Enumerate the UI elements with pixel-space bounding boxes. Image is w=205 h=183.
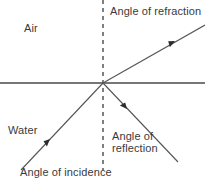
- label-angle-of-reflection: Angle of reflection: [112, 130, 158, 154]
- label-angle-of-refraction: Angle of refraction: [110, 5, 201, 17]
- refracted-ray-line: [103, 25, 205, 83]
- label-water: Water: [8, 124, 37, 136]
- optics-diagram: Air Water Angle of refraction Angle of r…: [0, 0, 205, 183]
- label-air: Air: [24, 22, 38, 34]
- label-angle-of-incidence: Angle of incidence: [20, 166, 112, 178]
